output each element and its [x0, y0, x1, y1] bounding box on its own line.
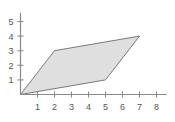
y-tick-label: 4 — [8, 32, 13, 42]
y-tick-label: 1 — [8, 75, 13, 85]
y-tick-label: 3 — [8, 46, 13, 56]
y-tick-label: 5 — [8, 17, 13, 27]
y-axis-ticks: 12345 — [8, 17, 23, 85]
x-tick-label: 2 — [52, 102, 57, 112]
x-tick-label: 1 — [35, 102, 40, 112]
parallelogram-shape — [21, 36, 140, 94]
x-tick-label: 7 — [137, 102, 142, 112]
y-tick-label: 2 — [8, 61, 13, 71]
x-tick-label: 4 — [86, 102, 91, 112]
x-tick-label: 5 — [103, 102, 108, 112]
x-tick-label: 6 — [120, 102, 125, 112]
x-tick-label: 3 — [69, 102, 74, 112]
plot-area: 12345678 12345 — [0, 0, 175, 122]
x-tick-label: 8 — [154, 102, 159, 112]
coordinate-plane-figure: 12345678 12345 — [0, 0, 175, 122]
shape-layer — [21, 36, 140, 94]
